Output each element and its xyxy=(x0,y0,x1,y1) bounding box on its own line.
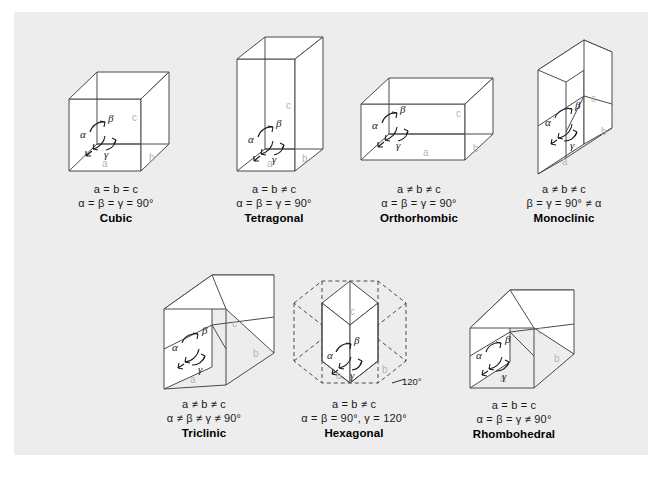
svg-text:b: b xyxy=(149,152,155,163)
hexagonal-diagram: c a b α β γ 120° xyxy=(274,267,434,397)
svg-text:β: β xyxy=(504,333,511,345)
orthorhombic-diagram: a b c α β γ xyxy=(339,60,499,182)
svg-text:c: c xyxy=(591,93,596,104)
triclinic-angles: α ≠ β ≠ γ ≠ 90° xyxy=(124,411,284,425)
triclinic-lengths: a ≠ b ≠ c xyxy=(124,397,284,411)
tetragonal-name: Tetragonal xyxy=(194,211,354,226)
svg-text:b: b xyxy=(554,353,560,364)
hexagonal-angles: α = β = 90°, γ = 120° xyxy=(274,411,434,425)
svg-text:b: b xyxy=(302,153,308,164)
svg-text:γ: γ xyxy=(104,148,109,160)
svg-text:γ: γ xyxy=(570,139,575,151)
tetragonal-angles: α = β = γ = 90° xyxy=(194,196,354,210)
crystal-cell-hexagonal: c a b α β γ 120° a = b ≠ c α = β = 90°, … xyxy=(274,267,434,441)
svg-text:c: c xyxy=(232,318,237,329)
svg-text:γ: γ xyxy=(350,369,355,381)
svg-text:β: β xyxy=(399,103,406,115)
monoclinic-name: Monoclinic xyxy=(484,211,644,226)
svg-text:a: a xyxy=(423,147,429,158)
svg-text:α: α xyxy=(545,116,551,128)
hexagonal-angle-annotation: 120° xyxy=(402,376,422,387)
rhombohedral-lengths: a = b = c xyxy=(434,398,594,412)
cubic-name: Cubic xyxy=(36,211,196,226)
hexagonal-lengths: a = b ≠ c xyxy=(274,397,434,411)
svg-text:c: c xyxy=(456,108,461,119)
svg-text:b: b xyxy=(473,143,479,154)
rhombohedral-diagram: a b c α β γ xyxy=(434,270,594,398)
monoclinic-angles: β = γ = 90° ≠ α xyxy=(484,196,644,210)
svg-text:a: a xyxy=(562,156,568,167)
svg-text:c: c xyxy=(132,112,137,123)
svg-text:α: α xyxy=(372,119,378,131)
svg-text:b: b xyxy=(382,364,388,375)
svg-text:b: b xyxy=(601,126,607,137)
monoclinic-lengths: a ≠ b ≠ c xyxy=(484,182,644,196)
svg-text:γ: γ xyxy=(502,370,507,382)
tetragonal-lengths: a = b ≠ c xyxy=(194,182,354,196)
crystal-cell-orthorhombic: a b c α β γ a ≠ b ≠ c α = β = γ = 90° Or… xyxy=(339,60,499,226)
cubic-diagram: a b c α β γ xyxy=(36,54,196,182)
svg-text:β: β xyxy=(107,112,114,124)
monoclinic-diagram: a b c α β γ xyxy=(484,22,644,182)
svg-text:c: c xyxy=(350,306,355,317)
svg-text:γ: γ xyxy=(396,139,401,151)
tetragonal-diagram: a b c α β γ xyxy=(194,29,354,182)
cubic-angles: α = β = γ = 90° xyxy=(36,196,196,210)
cubic-lengths: a = b = c xyxy=(36,182,196,196)
svg-text:c: c xyxy=(286,100,291,111)
triclinic-name: Triclinic xyxy=(124,426,284,441)
svg-text:β: β xyxy=(275,117,282,129)
svg-text:γ: γ xyxy=(198,363,203,375)
triclinic-diagram: a b c α β γ xyxy=(124,257,284,397)
crystal-cell-rhombohedral: a b c α β γ a = b = c α = β = γ ≠ 90° Rh… xyxy=(434,270,594,442)
rhombohedral-angles: α = β = γ ≠ 90° xyxy=(434,412,594,426)
crystal-systems-panel: a b c α β γ a = b = c α = β = γ = 90° Cu… xyxy=(14,12,648,455)
crystal-cell-monoclinic: a b c α β γ a ≠ b ≠ c β = γ = 90° ≠ α Mo… xyxy=(484,22,644,226)
crystal-cell-tetragonal: a b c α β γ a = b ≠ c α = β = γ = 90° Te… xyxy=(194,29,354,226)
svg-text:α: α xyxy=(80,128,86,140)
svg-text:c: c xyxy=(538,325,543,336)
svg-text:β: β xyxy=(201,324,208,336)
rhombohedral-name: Rhombohedral xyxy=(434,427,594,442)
svg-text:β: β xyxy=(574,99,581,111)
orthorhombic-lengths: a ≠ b ≠ c xyxy=(339,182,499,196)
svg-text:α: α xyxy=(172,341,178,353)
svg-text:α: α xyxy=(248,133,254,145)
svg-text:a: a xyxy=(190,374,196,385)
orthorhombic-angles: α = β = γ = 90° xyxy=(339,196,499,210)
svg-text:β: β xyxy=(353,334,360,346)
svg-text:α: α xyxy=(476,349,482,361)
svg-text:b: b xyxy=(253,348,259,359)
svg-text:α: α xyxy=(327,349,333,361)
crystal-cell-cubic: a b c α β γ a = b = c α = β = γ = 90° Cu… xyxy=(36,54,196,226)
crystal-cell-triclinic: a b c α β γ a ≠ b ≠ c α ≠ β ≠ γ ≠ 90° Tr… xyxy=(124,257,284,441)
hexagonal-name: Hexagonal xyxy=(274,426,434,441)
orthorhombic-name: Orthorhombic xyxy=(339,211,499,226)
svg-text:γ: γ xyxy=(272,153,277,165)
